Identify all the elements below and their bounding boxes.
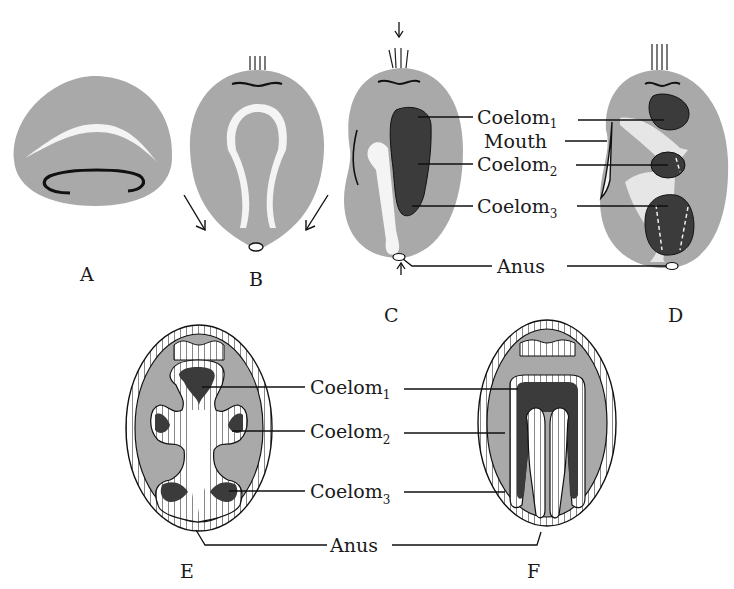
label-anus-top: Anus (496, 255, 545, 277)
embryo-d (600, 44, 728, 270)
label-coelom3-top: Coelom3 (477, 195, 557, 221)
arrow-up-icon (397, 263, 405, 275)
label-coelom1-bottom: Coelom1 (310, 376, 390, 402)
embryo-c (344, 22, 463, 275)
label-coelom1-top: Coelom1 (477, 106, 557, 131)
embryo-b (184, 56, 328, 251)
embryo-e (126, 325, 272, 531)
label-coelom2-top: Coelom2 (477, 153, 557, 179)
embryo-a (14, 76, 172, 206)
label-mouth: Mouth (484, 130, 547, 152)
panel-label-a: A (79, 263, 94, 285)
panel-label-d: D (668, 304, 683, 326)
panel-label-e: E (180, 560, 194, 582)
embryo-f (478, 320, 616, 526)
label-coelom3-bottom: Coelom3 (310, 480, 390, 507)
panel-label-b: B (249, 268, 263, 290)
panel-label-c: C (384, 304, 399, 326)
diagram-canvas: Coelom1 Mouth Coelom2 Coelom3 Anus A B C… (0, 0, 734, 589)
panel-label-f: F (527, 560, 540, 582)
coelom-formation-figure: Coelom1 Mouth Coelom2 Coelom3 Anus A B C… (0, 0, 734, 589)
label-anus-bottom: Anus (329, 534, 378, 556)
arrow-down-icon (395, 22, 403, 37)
label-coelom2-bottom: Coelom2 (310, 420, 390, 447)
